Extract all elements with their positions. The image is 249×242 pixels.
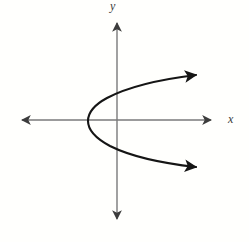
graph-canvas [0,0,249,242]
parabola-figure: y x [0,0,249,242]
y-axis-label: y [110,0,115,12]
parabola-curve [88,75,196,167]
parabola-lower-branch [88,121,196,167]
parabola-upper-branch [88,75,196,121]
x-axis-label: x [228,113,233,125]
